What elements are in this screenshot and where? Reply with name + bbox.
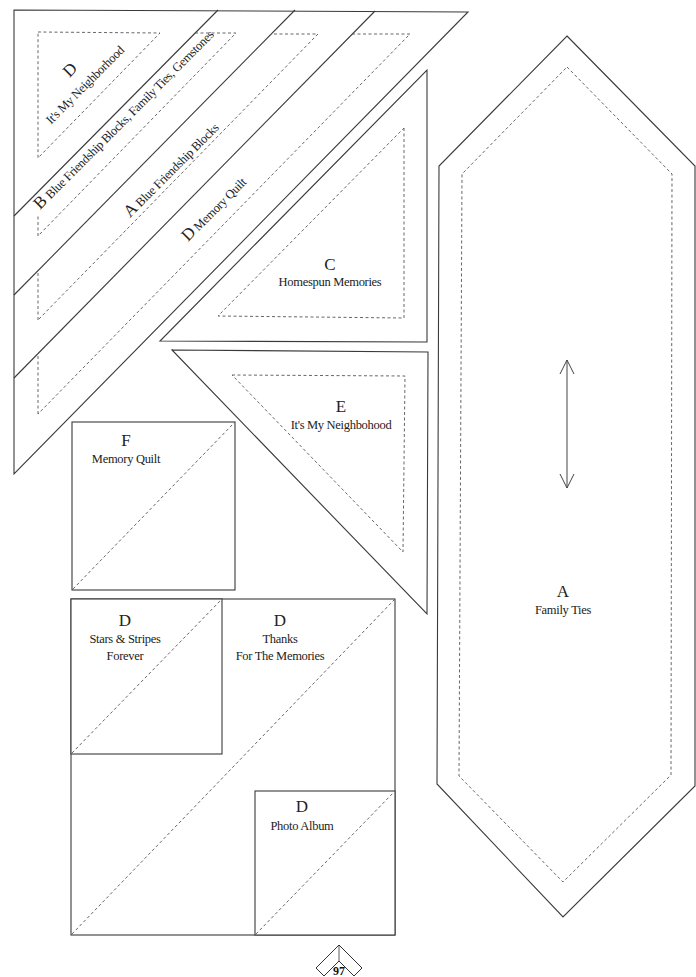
piece-name-line2: Forever	[107, 649, 145, 663]
strip-cut-line-2	[14, 10, 295, 295]
triangle-e-outline	[172, 350, 428, 614]
page-number-badge: 97	[316, 945, 362, 977]
hexagon-a-seam	[459, 67, 672, 882]
piece-name: Photo Album	[270, 819, 334, 833]
piece-letter: D	[296, 797, 308, 816]
seam-d-memory	[38, 34, 410, 414]
piece-name: Family Ties	[535, 603, 592, 617]
piece-name: Memory Quilt	[191, 175, 250, 234]
quilt-template-sheet: D It's My Neighborhood B Blue Friendship…	[0, 0, 696, 977]
piece-letter: E	[336, 397, 346, 416]
piece-name-line2: For The Memories	[236, 649, 325, 663]
piece-a-family-ties: A Family Ties	[437, 36, 695, 917]
piece-letter: C	[324, 255, 335, 274]
piece-letter: D	[274, 611, 286, 630]
piece-name: Homespun Memories	[279, 275, 382, 289]
piece-c-homespun-memories: C Homespun Memories	[160, 70, 427, 342]
piece-f-memory-quilt: F Memory Quilt	[72, 422, 235, 590]
piece-name: Blue Friendship Blocks, Family Ties, Gem…	[43, 27, 217, 201]
diagonal-strips-group: D It's My Neighborhood B Blue Friendship…	[14, 10, 468, 474]
piece-letter: D	[59, 59, 81, 81]
piece-e-neighborhood: E It's My Neighbohood	[172, 350, 428, 614]
piece-name-line1: Thanks	[263, 632, 298, 646]
piece-d-stars-and-stripes: D Stars & Stripes Forever	[71, 599, 222, 754]
piece-letter: A	[557, 582, 570, 601]
piece-name: It's My Neighbohood	[291, 418, 393, 432]
strip-cut-line-1	[14, 10, 218, 216]
triangle-c-outline	[160, 70, 427, 342]
piece-name-line1: Stars & Stripes	[89, 632, 161, 646]
piece-letter: F	[121, 431, 130, 450]
piece-letter: D	[119, 611, 131, 630]
seam-a	[38, 34, 318, 320]
grainline-double-arrow-icon	[560, 360, 574, 488]
piece-d-photo-album: D Photo Album	[255, 791, 395, 935]
square-f-diagonal-seam	[73, 423, 234, 589]
triangle-c-seam	[218, 128, 404, 318]
piece-name: Blue Friendship Blocks	[133, 120, 222, 209]
strip-a-label: A Blue Friendship Blocks	[119, 118, 222, 221]
piece-name: Memory Quilt	[92, 452, 161, 466]
page-number: 97	[333, 964, 345, 977]
triangle-e-seam	[232, 375, 405, 552]
hexagon-a-outline	[437, 36, 695, 917]
strip-d-neighborhood-label: D It's My Neighborhood	[26, 25, 128, 127]
